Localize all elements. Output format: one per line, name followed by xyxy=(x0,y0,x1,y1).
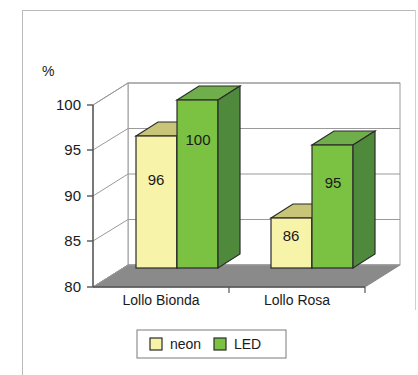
legend-label-led: LED xyxy=(234,336,261,352)
bar-bionda-led[interactable]: 100 xyxy=(177,86,240,268)
bar-front-face xyxy=(312,145,353,268)
bar-side-face xyxy=(218,86,240,268)
y-tick-label-90: 90 xyxy=(64,187,81,204)
bar-value-label: 96 xyxy=(148,171,165,188)
bar-rosa-led[interactable]: 95 xyxy=(312,131,375,268)
y-tick-label-95: 95 xyxy=(64,141,81,158)
legend-swatch-led xyxy=(214,338,226,350)
bar-value-label: 100 xyxy=(185,131,210,148)
legend-swatch-neon xyxy=(150,338,162,350)
category-label-lollo-bionda: Lollo Bionda xyxy=(122,292,199,308)
chart-svg: % 100 95 90 85 80 96 xyxy=(0,0,418,375)
y-tick-label-100: 100 xyxy=(56,96,81,113)
bar-value-label: 95 xyxy=(325,174,342,191)
bar-chart: % 100 95 90 85 80 96 xyxy=(0,0,418,375)
bar-side-face xyxy=(353,131,375,268)
legend: neon LED xyxy=(137,330,286,358)
y-tick-label-85: 85 xyxy=(64,232,81,249)
bar-front-face xyxy=(177,100,218,268)
legend-label-neon: neon xyxy=(170,336,201,352)
bar-front-face xyxy=(136,136,177,268)
y-axis-ticks xyxy=(87,105,93,287)
y-axis-unit-label: % xyxy=(42,63,54,79)
category-label-lollo-rosa: Lollo Rosa xyxy=(264,292,330,308)
legend-item-led[interactable]: LED xyxy=(214,336,261,352)
y-tick-label-80: 80 xyxy=(64,278,81,295)
bar-value-label: 86 xyxy=(283,227,300,244)
chart-page: % 100 95 90 85 80 96 xyxy=(0,0,418,375)
legend-item-neon[interactable]: neon xyxy=(150,336,201,352)
